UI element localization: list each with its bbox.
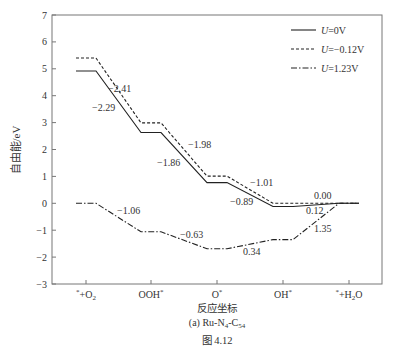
step-energy-label: −0.89 <box>230 196 253 207</box>
step-energy-label: −1.01 <box>250 177 273 188</box>
step-energy-label: −1.86 <box>157 157 180 168</box>
subfigure-caption: (a) Ru-N4-C54 <box>189 317 246 330</box>
step-annotations: −2.41−2.29−1.98−1.86−1.01−0.890.000.121.… <box>92 83 332 257</box>
legend-label: U=0V <box>321 25 347 36</box>
x-tick-label: OH* <box>274 288 292 300</box>
legend-label: U=−0.12V <box>321 44 365 55</box>
step-energy-label: 0.12 <box>306 205 324 216</box>
step-energy-label: −2.29 <box>92 102 115 113</box>
step-energy-label: 0.34 <box>243 246 261 257</box>
x-tick-label: O* <box>212 288 223 300</box>
step-energy-label: 0.00 <box>314 190 332 201</box>
y-tick-label: −2 <box>36 252 47 263</box>
step-energy-label: −1.06 <box>117 205 140 216</box>
series-line-dashed <box>76 58 359 203</box>
step-energy-label: −0.63 <box>180 229 203 240</box>
x-axis: *+O2OOH*O*OH**+H2O <box>76 280 362 302</box>
y-tick-label: 7 <box>42 10 47 21</box>
figure-caption: 图 4.12 <box>202 335 233 346</box>
step-energy-label: −1.98 <box>188 139 211 150</box>
x-tick-label: *+O2 <box>76 288 96 302</box>
y-tick-label: 1 <box>42 171 47 182</box>
y-tick-label: 3 <box>42 117 47 128</box>
free-energy-chart: −3−2−101234567 *+O2OOH*O*OH**+H2O −2.41−… <box>0 0 396 352</box>
y-tick-label: 5 <box>42 63 47 74</box>
x-axis-label: 反应坐标 <box>197 302 238 314</box>
y-tick-label: 6 <box>42 36 47 47</box>
legend-label: U=1.23V <box>321 63 359 74</box>
y-tick-label: 2 <box>42 144 47 155</box>
y-tick-label: −1 <box>36 225 47 236</box>
y-tick-label: 0 <box>42 198 47 209</box>
y-axis-label: 自由能/eV <box>9 126 22 175</box>
y-tick-label: 4 <box>42 90 47 101</box>
y-axis: −3−2−101234567 <box>36 10 56 290</box>
x-tick-label: *+H2O <box>335 288 362 302</box>
plot-frame <box>52 15 382 284</box>
legend: U=0VU=−0.12VU=1.23V <box>291 25 365 74</box>
x-tick-label: OOH* <box>138 288 164 300</box>
step-energy-label: 1.35 <box>314 223 332 234</box>
y-tick-label: −3 <box>36 279 47 290</box>
step-energy-label: −2.41 <box>108 83 131 94</box>
